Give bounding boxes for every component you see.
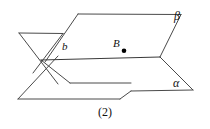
back-corner-top-edge <box>19 33 63 34</box>
beta-left-edge <box>45 14 78 62</box>
beta-back-corner <box>19 33 63 84</box>
line-b <box>41 57 160 60</box>
alpha-lower-horizontal <box>131 90 193 91</box>
figure-caption: (2) <box>0 105 210 120</box>
alpha-bottom-right-edge <box>120 91 131 99</box>
alpha-inner-slant <box>41 60 70 83</box>
point-b-label: B <box>113 38 120 49</box>
plane-beta-label: β <box>174 10 180 22</box>
line-b-label: b <box>62 41 68 52</box>
plane-alpha-label: α <box>173 77 179 89</box>
geometry-figure: β α b B (2) <box>0 0 210 129</box>
beta-top-edge <box>78 14 181 15</box>
alpha-left-edge <box>18 56 58 99</box>
plane-alpha-shape <box>18 56 193 99</box>
point-b-marker <box>122 49 127 54</box>
